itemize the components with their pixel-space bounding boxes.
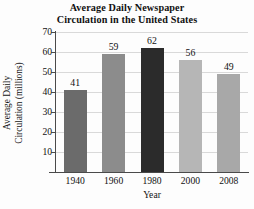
bar-value-label: 59	[97, 42, 131, 52]
y-axis-tick-label: 20	[32, 127, 52, 137]
y-axis-title-line-2: Circulation (millions)	[13, 62, 25, 144]
y-axis-tick-label: 30	[32, 107, 52, 117]
y-axis-tick	[51, 132, 56, 133]
y-axis-tick-labels: 70605040302010	[30, 32, 52, 174]
bar-value-label: 62	[135, 36, 169, 46]
bar-chart-figure: Average Daily Newspaper Circulation in t…	[0, 0, 254, 209]
gridline	[56, 32, 248, 33]
bar-value-label: 49	[212, 62, 246, 72]
x-axis-tick-label: 1980	[134, 175, 170, 186]
y-axis-title-line-1: Average Daily	[2, 62, 14, 144]
x-axis-tick-label: 2000	[172, 175, 208, 186]
x-axis-title: Year	[56, 189, 248, 200]
bar-2008	[217, 74, 240, 172]
y-axis-title: Average Daily Circulation (millions)	[0, 30, 26, 175]
bar-1980	[141, 48, 164, 172]
y-axis-tick	[51, 112, 56, 113]
y-axis-tick-label: 50	[32, 67, 52, 77]
x-axis-tick-labels: 19401960198020002008	[56, 175, 248, 188]
y-axis-tick-label: 10	[32, 147, 52, 157]
x-axis-line	[49, 172, 249, 173]
y-axis-tick	[51, 52, 56, 53]
bar-value-label: 56	[173, 48, 207, 58]
y-axis-tick-label: 40	[32, 87, 52, 97]
y-axis-tick-label: 70	[32, 27, 52, 37]
y-axis-tick-label: 60	[32, 47, 52, 57]
x-axis-tick-label: 2008	[211, 175, 247, 186]
bar-value-label: 41	[58, 78, 92, 88]
y-axis-tick	[51, 72, 56, 73]
chart-title-line-2: Circulation in the United States	[0, 14, 254, 26]
bar-1960	[102, 54, 125, 172]
x-axis-tick-label: 1960	[96, 175, 132, 186]
bar-1940	[64, 90, 87, 172]
y-axis-tick	[51, 152, 56, 153]
y-axis-tick	[51, 92, 56, 93]
x-axis-tick-label: 1940	[57, 175, 93, 186]
chart-title: Average Daily Newspaper Circulation in t…	[0, 2, 254, 26]
bar-2000	[179, 60, 202, 172]
chart-title-line-1: Average Daily Newspaper	[0, 2, 254, 14]
y-axis-tick	[51, 32, 56, 33]
plot-area: 4159625649	[56, 32, 248, 172]
